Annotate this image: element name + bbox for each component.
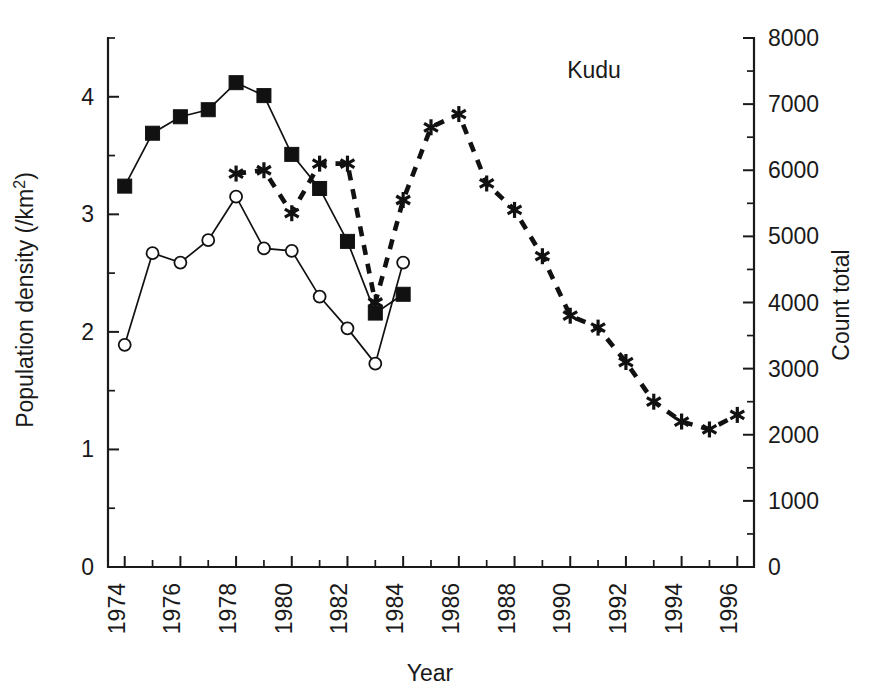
plot-title: Kudu [567, 57, 621, 83]
data-point-circle [202, 234, 214, 246]
data-point-square [173, 110, 187, 124]
x-tick-label: 1980 [271, 583, 297, 634]
data-point-circle [369, 358, 381, 370]
data-point-square [257, 89, 271, 103]
y2-tick-label: 5000 [768, 223, 819, 249]
series-line [236, 114, 737, 429]
data-point-square [146, 126, 160, 140]
tick-labels-group: 0123401000200030004000500060007000800019… [81, 25, 819, 634]
y2-tick-label: 0 [768, 554, 781, 580]
x-tick-label: 1978 [215, 583, 241, 634]
y2-tick-label: 4000 [768, 290, 819, 316]
y-tick-label: 0 [81, 554, 94, 580]
y2-axis-title: Count total [828, 249, 854, 360]
ticks-group [108, 38, 754, 567]
data-point-square [396, 287, 410, 301]
x-tick-label: 1986 [438, 583, 464, 634]
y2-tick-label: 2000 [768, 422, 819, 448]
series-line [125, 83, 403, 313]
y-tick-label: 4 [81, 84, 94, 110]
data-point-asterisk [508, 202, 522, 218]
data-point-circle [119, 339, 131, 351]
y2-tick-label: 8000 [768, 25, 819, 51]
x-tick-label: 1988 [494, 583, 520, 634]
data-point-circle [258, 242, 270, 254]
y2-tick-label: 3000 [768, 356, 819, 382]
data-point-circle [286, 245, 298, 257]
axis-spines [108, 38, 754, 567]
kudu-population-chart: 0123401000200030004000500060007000800019… [0, 0, 878, 691]
data-point-circle [230, 191, 242, 203]
data-point-circle [397, 257, 409, 269]
y2-tick-label: 1000 [768, 488, 819, 514]
data-point-square [285, 147, 299, 161]
series-asterisk-count-series [229, 106, 744, 437]
data-point-circle [174, 257, 186, 269]
x-tick-label: 1982 [326, 583, 352, 634]
data-point-asterisk [535, 248, 549, 264]
x-tick-label: 1996 [716, 583, 742, 634]
data-point-circle [147, 247, 159, 259]
series-open-circle-series [119, 191, 409, 370]
data-point-asterisk [730, 407, 744, 423]
data-point-square [229, 76, 243, 90]
data-point-circle [341, 322, 353, 334]
chart-canvas: 0123401000200030004000500060007000800019… [0, 0, 878, 691]
x-tick-label: 1974 [104, 583, 130, 634]
data-point-circle [314, 291, 326, 303]
series-line [125, 197, 403, 364]
data-point-square [313, 181, 327, 195]
y-tick-label: 3 [81, 201, 94, 227]
data-series-group [118, 76, 745, 438]
data-point-asterisk [285, 205, 299, 221]
series-filled-square-series [118, 76, 410, 320]
y-tick-label: 2 [81, 319, 94, 345]
data-point-asterisk [396, 192, 410, 208]
y2-tick-label: 7000 [768, 91, 819, 117]
y-axis-title: Population density (/km2) [11, 172, 38, 428]
data-point-square [118, 179, 132, 193]
x-tick-label: 1992 [605, 583, 631, 634]
y-tick-label: 1 [81, 436, 94, 462]
x-tick-label: 1994 [661, 583, 687, 634]
y2-tick-label: 6000 [768, 157, 819, 183]
data-point-square [340, 234, 354, 248]
x-tick-label: 1976 [159, 583, 185, 634]
axes-group [108, 38, 754, 567]
data-point-square [201, 103, 215, 117]
data-point-asterisk [480, 175, 494, 191]
x-tick-label: 1984 [382, 583, 408, 634]
x-axis-title: Year [407, 660, 454, 686]
x-tick-label: 1990 [549, 583, 575, 634]
